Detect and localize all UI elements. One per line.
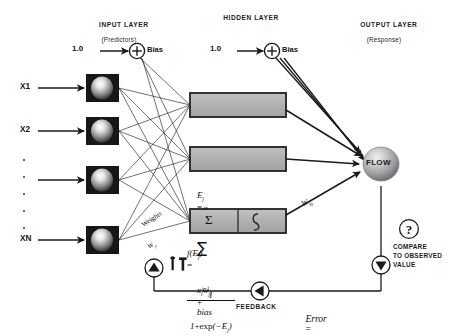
input-ellipsis-dots [23, 159, 25, 229]
feedback-label: FEEDBACK [236, 303, 277, 310]
diagram-canvas: INPUT LAYER (Predictors) HIDDEN LAYER OU… [0, 0, 460, 336]
hidden-layer-header: HIDDEN LAYER [196, 14, 306, 21]
output-node-label: FLOW [366, 159, 391, 168]
input-node-squares [86, 74, 119, 254]
error-formula: Error = 1 2 N ∑ i=1 (yi−di)2 [296, 303, 332, 336]
input-label-x1: X1 [20, 82, 30, 91]
activation-formula: f(Ej) = 1 1+exp(−Ej) [178, 238, 235, 336]
svg-text:?: ? [406, 222, 413, 237]
input-bias-value: 1.0 [72, 45, 83, 54]
output-layer-header: OUTPUT LAYER (Response) [326, 14, 442, 58]
input-label-x2: X2 [20, 125, 30, 134]
input-label-xn: XN [20, 234, 31, 243]
input-bias-label: Bias [147, 46, 163, 55]
hidden-bias-label: Bias [282, 46, 298, 55]
compare-observed-label: COMPARE TO OBSERVED VALUE [393, 243, 457, 269]
hidden-bias-value: 1.0 [210, 45, 221, 54]
question-mark-icon: ? [398, 218, 420, 244]
